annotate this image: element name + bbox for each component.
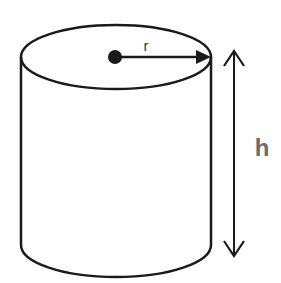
height-label: h — [255, 134, 270, 161]
cylinder-figure: r h — [0, 0, 281, 283]
cylinder-diagram: r h — [0, 0, 281, 283]
radius-label: r — [144, 37, 149, 54]
